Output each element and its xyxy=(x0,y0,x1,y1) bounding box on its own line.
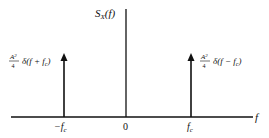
psd-axis-label: SX(f) xyxy=(95,7,116,21)
svg-text:4: 4 xyxy=(12,63,15,69)
svg-text:δ(f + fc): δ(f + fc) xyxy=(22,56,50,67)
frequency-axis-label: f xyxy=(255,111,260,123)
tick-label-neg-fc: −fc xyxy=(54,121,68,134)
impulse-positive-fc xyxy=(188,53,195,117)
impulse-negative-fc xyxy=(61,53,68,117)
svg-text:A2: A2 xyxy=(9,53,17,62)
tick-label-fc: fc xyxy=(187,121,194,134)
arrow-up-icon xyxy=(188,53,195,61)
svg-text:δ(f − fc): δ(f − fc) xyxy=(213,56,241,67)
psd-diagram: f SX(f) A2 4 δ(f + fc) A2 4 δ(f − fc) xyxy=(0,0,269,138)
arrow-up-icon xyxy=(61,53,68,61)
impulse-label-left: A2 4 δ(f + fc) xyxy=(9,53,50,69)
svg-text:4: 4 xyxy=(203,63,206,69)
svg-text:A2: A2 xyxy=(200,53,208,62)
tick-label-zero: 0 xyxy=(123,121,128,132)
impulse-label-right: A2 4 δ(f − fc) xyxy=(200,53,241,69)
